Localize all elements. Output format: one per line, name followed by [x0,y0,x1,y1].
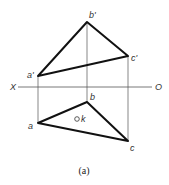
axis-label-o: O [155,82,162,92]
label-b: b [90,92,95,102]
label-c-prime: c' [131,53,138,63]
label-k: k [81,114,86,124]
projection-diagram: X O a' b' c' a b c k (a) [0,0,169,185]
label-a: a [28,121,33,131]
point-k-marker [75,117,80,122]
figure-caption: (a) [78,165,89,177]
axis-label-x: X [9,82,17,92]
label-b-prime: b' [89,10,96,20]
label-c: c [130,143,135,153]
front-view-triangle [38,22,128,76]
label-a-prime: a' [27,70,34,80]
